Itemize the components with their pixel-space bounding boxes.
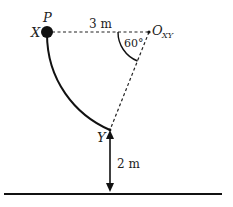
label-angle: 60° [124, 37, 144, 50]
label-2m: 2 m [117, 157, 140, 171]
ball-p [41, 26, 53, 38]
label-x: X [30, 25, 41, 40]
swing-path-curve [47, 34, 110, 130]
arrow-up-icon [106, 130, 114, 139]
label-o-subscript: XY [161, 31, 174, 40]
label-y: Y [97, 130, 107, 145]
label-3m: 3 m [89, 17, 112, 31]
label-p: P [42, 10, 52, 25]
pendulum-diagram: P X 3 m O XY 60° Y 2 m [0, 0, 233, 207]
arrow-down-icon [106, 183, 114, 192]
pivot-point-o [147, 30, 150, 33]
